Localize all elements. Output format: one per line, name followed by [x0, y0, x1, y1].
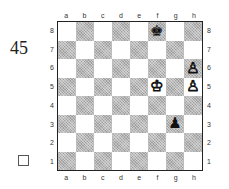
square-a1[interactable] — [58, 152, 76, 171]
rank-label-4-r: 4 — [205, 96, 213, 115]
square-e1[interactable] — [130, 152, 148, 171]
rank-label-1-l: 1 — [48, 152, 56, 171]
square-e8[interactable] — [130, 22, 148, 41]
square-b8[interactable] — [76, 22, 94, 41]
square-a8[interactable] — [58, 22, 76, 41]
square-a7[interactable] — [58, 41, 76, 60]
square-d3[interactable] — [112, 115, 130, 134]
square-h7[interactable] — [184, 41, 202, 60]
square-d4[interactable] — [112, 96, 130, 115]
file-label-f-top: f — [148, 12, 166, 19]
square-h1[interactable] — [184, 152, 202, 171]
white-pawn-icon[interactable]: ♙ — [186, 61, 199, 76]
square-b4[interactable] — [76, 96, 94, 115]
square-g6[interactable] — [166, 59, 184, 78]
square-g3[interactable]: ♟ — [166, 115, 184, 134]
square-e6[interactable] — [130, 59, 148, 78]
rank-label-3-r: 3 — [205, 115, 213, 134]
rank-label-5-l: 5 — [48, 77, 56, 96]
rank-label-2-l: 2 — [48, 134, 56, 153]
file-label-h-bot: h — [185, 174, 203, 181]
rank-label-6-l: 6 — [48, 59, 56, 78]
square-c2[interactable] — [94, 133, 112, 152]
square-b6[interactable] — [76, 59, 94, 78]
square-f2[interactable] — [148, 133, 166, 152]
file-label-c-top: c — [94, 12, 112, 19]
square-d8[interactable] — [112, 22, 130, 41]
square-h8[interactable] — [184, 22, 202, 41]
square-a6[interactable] — [58, 59, 76, 78]
square-e4[interactable] — [130, 96, 148, 115]
square-f1[interactable] — [148, 152, 166, 171]
square-f8[interactable]: ♚ — [148, 22, 166, 41]
square-b2[interactable] — [76, 133, 94, 152]
file-label-a-top: a — [57, 12, 75, 19]
rank-label-6-r: 6 — [205, 59, 213, 78]
square-a2[interactable] — [58, 133, 76, 152]
square-d7[interactable] — [112, 41, 130, 60]
square-c6[interactable] — [94, 59, 112, 78]
square-b7[interactable] — [76, 41, 94, 60]
square-d1[interactable] — [112, 152, 130, 171]
square-g8[interactable] — [166, 22, 184, 41]
square-d6[interactable] — [112, 59, 130, 78]
square-e3[interactable] — [130, 115, 148, 134]
file-label-g-bot: g — [167, 174, 185, 181]
square-f4[interactable] — [148, 96, 166, 115]
rank-label-8-l: 8 — [48, 21, 56, 40]
file-label-b-top: b — [75, 12, 93, 19]
square-d5[interactable] — [112, 78, 130, 97]
square-c3[interactable] — [94, 115, 112, 134]
square-g5[interactable] — [166, 78, 184, 97]
file-label-e-bot: e — [130, 174, 148, 181]
square-h3[interactable] — [184, 115, 202, 134]
black-king-icon[interactable]: ♚ — [150, 24, 163, 39]
square-g2[interactable] — [166, 133, 184, 152]
square-d2[interactable] — [112, 133, 130, 152]
square-c8[interactable] — [94, 22, 112, 41]
square-h2[interactable] — [184, 133, 202, 152]
square-a4[interactable] — [58, 96, 76, 115]
square-e2[interactable] — [130, 133, 148, 152]
file-label-c-bot: c — [94, 174, 112, 181]
white-king-icon[interactable]: ♔ — [150, 79, 163, 94]
square-b1[interactable] — [76, 152, 94, 171]
file-label-f-bot: f — [148, 174, 166, 181]
square-b5[interactable] — [76, 78, 94, 97]
rank-label-4-l: 4 — [48, 96, 56, 115]
square-f3[interactable] — [148, 115, 166, 134]
square-h5[interactable]: ♙ — [184, 78, 202, 97]
square-e5[interactable] — [130, 78, 148, 97]
square-c7[interactable] — [94, 41, 112, 60]
rank-label-3-l: 3 — [48, 115, 56, 134]
square-a5[interactable] — [58, 78, 76, 97]
square-c4[interactable] — [94, 96, 112, 115]
square-h6[interactable]: ♙ — [184, 59, 202, 78]
file-label-d-top: d — [112, 12, 130, 19]
file-label-g-top: g — [167, 12, 185, 19]
square-f5[interactable]: ♔ — [148, 78, 166, 97]
square-e7[interactable] — [130, 41, 148, 60]
white-to-move-indicator — [18, 155, 29, 166]
square-b3[interactable] — [76, 115, 94, 134]
file-label-h-top: h — [185, 12, 203, 19]
black-pawn-icon[interactable]: ♟ — [168, 116, 181, 131]
square-g4[interactable] — [166, 96, 184, 115]
square-h4[interactable] — [184, 96, 202, 115]
square-a3[interactable] — [58, 115, 76, 134]
rank-label-7-r: 7 — [205, 40, 213, 59]
square-c5[interactable] — [94, 78, 112, 97]
rank-label-2-r: 2 — [205, 134, 213, 153]
chess-board: ♚♙♔♙♟ — [57, 21, 203, 171]
rank-label-5-r: 5 — [205, 77, 213, 96]
rank-label-8-r: 8 — [205, 21, 213, 40]
rank-label-1-r: 1 — [205, 152, 213, 171]
square-f7[interactable] — [148, 41, 166, 60]
rank-label-7-l: 7 — [48, 40, 56, 59]
square-g1[interactable] — [166, 152, 184, 171]
square-c1[interactable] — [94, 152, 112, 171]
white-pawn-icon[interactable]: ♙ — [186, 79, 199, 94]
square-f6[interactable] — [148, 59, 166, 78]
file-label-e-top: e — [130, 12, 148, 19]
square-g7[interactable] — [166, 41, 184, 60]
